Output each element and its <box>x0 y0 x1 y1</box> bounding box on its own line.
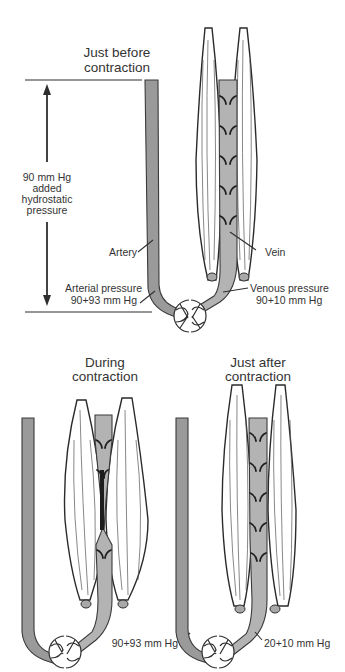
venous-pressure-label-after: 20+10 mm Hg <box>264 637 330 649</box>
arterial-pressure-label-line1: Arterial pressure <box>65 282 142 294</box>
arterial-pressure-label-during: 90+93 mm Hg <box>112 637 178 649</box>
venous-pressure-label-line2: 90+10 mm Hg <box>256 294 322 306</box>
muscle-pump-diagram: Just before contraction 90 mm Hg added h… <box>0 0 345 672</box>
hydrostatic-label-line4: pressure <box>27 204 68 216</box>
muscle-left <box>196 28 221 281</box>
arterial-pressure-label-line2: 90+93 mm Hg <box>71 294 137 306</box>
arrow-down-icon <box>43 295 51 306</box>
panel-after: Just after contraction 20+10 mm Hg <box>176 355 330 672</box>
artery-after <box>176 418 210 664</box>
panel-during: During contraction 90+93 mm Hg <box>22 355 190 672</box>
panel-after-title-line1: Just after <box>230 355 286 370</box>
venous-pressure-label-line1: Venous pressure <box>250 282 329 294</box>
panel-during-title-line1: During <box>85 355 125 370</box>
artery <box>145 80 178 318</box>
capillary-bed <box>174 298 206 334</box>
muscle-left-after <box>222 385 252 613</box>
compressed-vein-segment <box>100 470 104 530</box>
artery-during <box>22 418 56 664</box>
capillary-bed-during <box>49 634 81 672</box>
panel-during-title-line2: contraction <box>72 369 138 384</box>
panel-before-title-line2: contraction <box>84 60 150 75</box>
artery-label: Artery <box>109 246 138 258</box>
panel-before: Just before contraction 90 mm Hg added h… <box>22 28 329 334</box>
panel-after-title-line2: contraction <box>225 369 291 384</box>
muscle-right-after <box>268 385 296 613</box>
panel-before-title-line1: Just before <box>84 45 151 60</box>
vein-label: Vein <box>265 246 286 258</box>
arrow-up-icon <box>43 84 51 95</box>
capillary-bed-after <box>202 634 234 672</box>
